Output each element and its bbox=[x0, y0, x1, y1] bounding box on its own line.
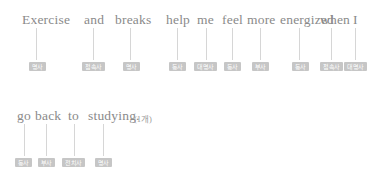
word-token[interactable]: when bbox=[320, 12, 350, 28]
tag-connector-line bbox=[331, 28, 332, 60]
word-token[interactable]: feel bbox=[222, 12, 243, 28]
pos-tag-chip[interactable]: 대명사 bbox=[344, 62, 367, 71]
word-token[interactable]: go bbox=[17, 108, 31, 124]
sentence-count-note: (1개) bbox=[134, 112, 152, 124]
word-token[interactable]: me bbox=[197, 12, 214, 28]
pos-tag-chip[interactable]: 동사 bbox=[15, 158, 32, 167]
tag-connector-line bbox=[260, 28, 261, 60]
word-token[interactable]: I bbox=[353, 12, 358, 28]
word-token[interactable]: breaks bbox=[115, 12, 151, 28]
pos-tag-chip[interactable]: 동사 bbox=[169, 62, 186, 71]
pos-tag-chip[interactable]: 명사 bbox=[95, 158, 112, 167]
pos-tag-chip[interactable]: 전치사 bbox=[62, 158, 85, 167]
word-token[interactable]: and bbox=[84, 12, 104, 28]
pos-tag-chip[interactable]: 명사 bbox=[29, 62, 46, 71]
tag-connector-line bbox=[93, 28, 94, 60]
tag-connector-line bbox=[177, 28, 178, 60]
word-token[interactable]: back bbox=[35, 108, 61, 124]
pos-tag-chip[interactable]: 대명사 bbox=[194, 62, 217, 71]
pos-tag-chip[interactable]: 부사 bbox=[38, 158, 55, 167]
pos-tag-chip[interactable]: 접속사 bbox=[82, 62, 105, 71]
word-token[interactable]: help bbox=[166, 12, 190, 28]
word-token[interactable]: studying. bbox=[88, 108, 140, 124]
pos-tag-chip[interactable]: 명사 bbox=[123, 62, 140, 71]
tag-connector-line bbox=[232, 28, 233, 60]
word-token[interactable]: more bbox=[247, 12, 276, 28]
tag-connector-line bbox=[130, 28, 131, 60]
tag-connector-line bbox=[206, 28, 207, 60]
pos-tag-chip[interactable]: 접속사 bbox=[320, 62, 343, 71]
tag-connector-line bbox=[46, 124, 47, 156]
tag-connector-line bbox=[103, 124, 104, 156]
tag-connector-line bbox=[36, 28, 37, 60]
tag-connector-line bbox=[24, 124, 25, 156]
pos-tag-chip[interactable]: 동사 bbox=[292, 62, 309, 71]
tag-connector-line bbox=[74, 124, 75, 156]
tag-connector-line bbox=[355, 28, 356, 60]
pos-tag-chip[interactable]: 부사 bbox=[252, 62, 269, 71]
word-token[interactable]: Exercise bbox=[22, 12, 70, 28]
tag-connector-line bbox=[299, 28, 300, 60]
word-token[interactable]: to bbox=[68, 108, 79, 124]
pos-tag-chip[interactable]: 동사 bbox=[224, 62, 241, 71]
